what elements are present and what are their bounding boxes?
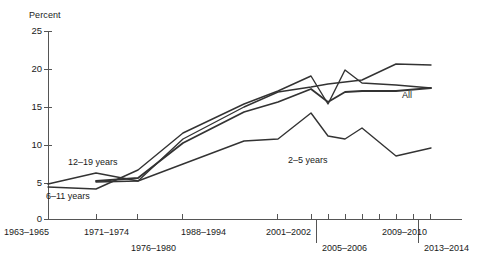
x-tick-label-1963-1965: 1963–1965 <box>4 227 49 237</box>
y-tick-label-15: 15 <box>20 102 42 112</box>
series-label-12-19-years: 12–19 years <box>68 157 118 167</box>
series-label-all: All <box>402 90 412 100</box>
series-line-6-11-years <box>48 70 431 189</box>
x-tick-label-2001-2002: 2001–2002 <box>266 227 311 237</box>
x-tick-label-1971-1974: 1971–1974 <box>84 227 129 237</box>
x-tick-label-1976-1980: 1976–1980 <box>131 243 176 253</box>
series-label-2-5-years: 2–5 years <box>288 155 328 165</box>
chart-container: Percent 25 20 15 10 5 0 1963–1965 1971–1… <box>0 0 477 269</box>
x-tick-label-2005-2006: 2005–2006 <box>322 243 367 253</box>
y-tick-label-10: 10 <box>20 140 42 150</box>
series-line-all <box>96 88 431 181</box>
y-tick-label-20: 20 <box>20 64 42 74</box>
series-label-6-11-years: 6–11 years <box>46 191 90 201</box>
x-tick-label-2013-2014: 2013–2014 <box>424 243 469 253</box>
y-axis-title: Percent <box>29 10 61 21</box>
y-tick-label-25: 25 <box>20 26 42 36</box>
x-tick-label-1988-1994: 1988–1994 <box>181 227 226 237</box>
y-tick-label-5: 5 <box>20 178 42 188</box>
x-tick-label-2009-2010: 2009–2010 <box>382 227 427 237</box>
y-tick-label-0: 0 <box>20 214 42 224</box>
x-axis-ticks <box>49 214 431 220</box>
